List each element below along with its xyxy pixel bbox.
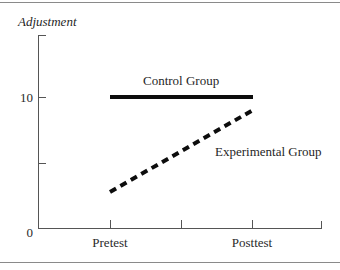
chart-figure: Adjustment 10 0 Pretest Posttest Control…	[0, 0, 340, 270]
bottom-divider-rule	[0, 262, 340, 263]
x-axis-tick-mid	[181, 220, 182, 228]
y-axis-tick-mid	[38, 163, 46, 164]
y-axis-tick-top	[39, 35, 46, 36]
y-axis-line	[38, 35, 39, 229]
x-axis-line	[38, 228, 322, 229]
x-tick-label-pretest: Pretest	[65, 236, 155, 250]
x-tick-label-posttest: Posttest	[207, 236, 297, 250]
series-label-experimental-group: Experimental Group	[215, 145, 322, 159]
series-line-experimental-group-svg	[0, 0, 340, 270]
y-tick-label-0: 0	[3, 226, 33, 239]
x-axis-tick-end	[321, 221, 322, 228]
series-label-control-group: Control Group	[143, 74, 219, 88]
x-axis-tick-posttest	[252, 220, 253, 228]
y-axis-title: Adjustment	[18, 14, 77, 29]
x-axis-tick-pretest	[110, 220, 111, 228]
series-line-control-group	[110, 95, 253, 99]
y-axis-tick-10	[38, 97, 46, 98]
y-tick-label-10: 10	[3, 91, 33, 104]
top-divider-rule	[0, 2, 340, 3]
